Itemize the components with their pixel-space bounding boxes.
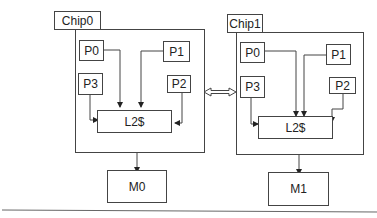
chip0-p0: P0 xyxy=(79,40,104,61)
chip1-p2: P2 xyxy=(329,77,356,94)
memory-m1: M1 xyxy=(268,172,329,206)
chip1-p0: P0 xyxy=(240,42,265,63)
chip0-p3: P3 xyxy=(78,73,103,95)
memory-m0: M0 xyxy=(107,170,167,203)
chip1-p1: P1 xyxy=(326,44,351,65)
chip0-label: Chip0 xyxy=(54,11,101,30)
interconnect-double-arrow xyxy=(204,88,236,96)
chip1-label: Chip1 xyxy=(227,14,263,33)
chip1-p3: P3 xyxy=(240,76,265,98)
chip0-p1: P1 xyxy=(163,41,190,62)
chip0-p2: P2 xyxy=(167,75,191,93)
chip0-l2-cache: L2$ xyxy=(97,110,172,133)
chip1-l2-cache: L2$ xyxy=(258,116,333,139)
